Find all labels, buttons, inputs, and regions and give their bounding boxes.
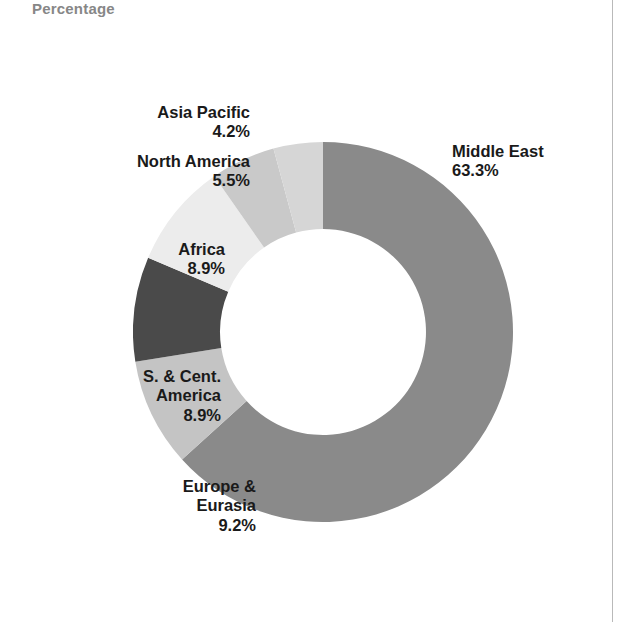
slice-label-africa: Africa 8.9%: [10, 240, 225, 279]
slice-label-s-cent-america: S. & Cent. America 8.9%: [6, 367, 221, 425]
donut-chart: [133, 142, 513, 522]
donut-chart-svg: [133, 142, 513, 522]
chart-root: Percentage Middle East 63.3% Asia Pacifi…: [0, 0, 617, 622]
donut-slice-group: [133, 142, 513, 522]
chart-title: Percentage: [32, 0, 115, 17]
right-border-rule: [612, 0, 613, 622]
slice-label-asia-pacific: Asia Pacific 4.2%: [20, 103, 250, 142]
slice-label-middle-east: Middle East 63.3%: [452, 142, 544, 181]
slice-label-europe-eurasia: Europe & Eurasia 9.2%: [26, 477, 256, 535]
slice-label-north-america: North America 5.5%: [10, 152, 250, 191]
